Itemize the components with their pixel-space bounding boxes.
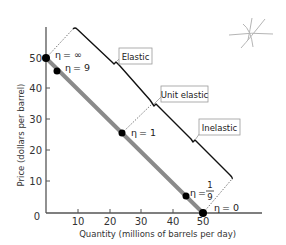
point-eta-infinity xyxy=(42,54,50,62)
x-tick-label-20: 20 xyxy=(104,216,117,227)
svg-text:= ∞: = ∞ xyxy=(63,49,82,60)
unit-elastic-label-box: Unit elastic xyxy=(154,86,209,104)
y-axis-title: Price (dollars per barrel) xyxy=(16,84,26,187)
svg-text:= 1: = 1 xyxy=(139,127,156,138)
point-eta-0 xyxy=(199,209,207,217)
demand-curve xyxy=(46,58,203,213)
eta-infinity-label: η = ∞ xyxy=(55,49,82,60)
x-tick-label-40: 40 xyxy=(167,216,180,227)
svg-text:η: η xyxy=(131,127,137,138)
x-axis-title: Quantity (millions of barrels per day) xyxy=(79,229,236,239)
svg-text:1: 1 xyxy=(207,180,212,190)
svg-text:Inelastic: Inelastic xyxy=(202,123,238,133)
y-tick-label-30: 30 xyxy=(29,114,42,125)
svg-text:= 9: = 9 xyxy=(73,62,90,73)
elasticity-bracket xyxy=(73,28,232,179)
svg-text:= 0: = 0 xyxy=(222,202,239,213)
origin-label: 0 xyxy=(34,211,40,222)
elasticity-chart: 50 40 30 20 10 0 10 20 30 40 50 Quantity… xyxy=(0,0,286,245)
elastic-label-box: Elastic xyxy=(116,48,152,64)
inelastic-label-box: Inelastic xyxy=(195,119,240,140)
eta-0-label: η = 0 xyxy=(214,202,239,213)
svg-text:η: η xyxy=(65,62,71,73)
svg-text:9: 9 xyxy=(207,192,212,202)
point-eta-one-ninth xyxy=(183,193,190,200)
svg-text:Elastic: Elastic xyxy=(122,52,150,62)
x-tick-label-10: 10 xyxy=(72,216,85,227)
svg-text:=: = xyxy=(198,187,206,198)
point-eta-9 xyxy=(54,68,61,75)
svg-text:Unit elastic: Unit elastic xyxy=(161,90,209,100)
pencil-scribble xyxy=(229,18,273,48)
eta-1-label: η = 1 xyxy=(131,127,156,138)
svg-text:η: η xyxy=(55,49,61,60)
y-tick-label-20: 20 xyxy=(29,145,42,156)
eta-9-label: η = 9 xyxy=(65,62,90,73)
x-tick-label-50: 50 xyxy=(197,216,210,227)
eta-one-ninth-label: η = 1 9 xyxy=(190,180,214,202)
svg-text:η: η xyxy=(190,187,196,198)
y-tick-label-10: 10 xyxy=(29,176,42,187)
y-tick-label-50: 50 xyxy=(29,53,42,64)
y-tick-label-40: 40 xyxy=(29,83,42,94)
point-eta-1 xyxy=(119,130,126,137)
svg-text:η: η xyxy=(214,202,220,213)
x-tick-label-30: 30 xyxy=(135,216,148,227)
